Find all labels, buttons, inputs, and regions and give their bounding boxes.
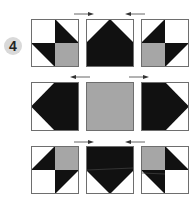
quilt-block-r1c2 xyxy=(86,19,134,67)
arrow-left-icon xyxy=(125,11,145,17)
quilt-block-r3c3 xyxy=(141,146,189,194)
quilt-block-r2c1 xyxy=(31,82,79,131)
arrow-right-icon xyxy=(74,11,94,17)
arrow-right-icon xyxy=(74,139,94,145)
arrow-left-icon xyxy=(70,74,90,80)
quilt-block-r2c2 xyxy=(86,82,134,131)
quilt-block-r3c1 xyxy=(31,146,79,194)
quilt-block-r1c1 xyxy=(31,19,79,67)
step-number-badge: 4 xyxy=(4,37,22,55)
quilt-block-r3c2 xyxy=(86,146,134,194)
quilt-block-r2c3 xyxy=(141,82,189,131)
arrow-left-icon xyxy=(125,139,145,145)
quilt-block-r1c3 xyxy=(141,19,189,67)
arrow-right-icon xyxy=(129,74,149,80)
